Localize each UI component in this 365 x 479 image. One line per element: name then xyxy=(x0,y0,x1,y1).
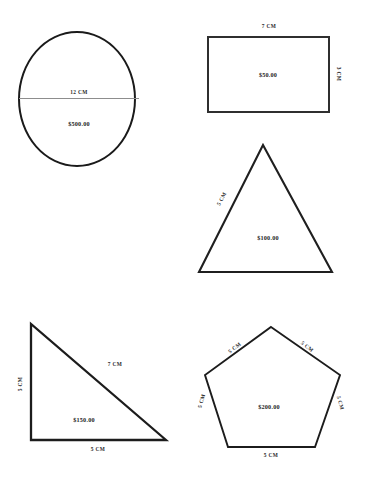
shape-rectangle: 7 CM 3 CM $50.00 xyxy=(207,36,330,113)
right-triangle-bottom-label: 5 CM xyxy=(91,447,105,452)
triangle-price-label: $100.00 xyxy=(257,235,279,241)
shape-pentagon: 5 CM 5 CM 5 CM 5 CM 5 CM $200.00 xyxy=(203,325,345,453)
right-triangle-left-label: 5 CM xyxy=(18,377,23,391)
triangle-outline xyxy=(196,143,338,277)
circle-outline xyxy=(18,31,136,167)
right-triangle-price-label: $150.00 xyxy=(73,417,95,423)
shape-circle: 12 CM $500.00 xyxy=(18,31,136,167)
pentagon-bottom-label: 5 CM xyxy=(264,453,278,458)
circle-diameter-line xyxy=(19,98,139,99)
pentagon-outline xyxy=(203,325,345,453)
worksheet-canvas: 12 CM $500.00 7 CM 3 CM $50.00 5 CM $100… xyxy=(0,0,365,479)
pentagon-price-label: $200.00 xyxy=(258,404,280,410)
rectangle-right-label: 3 CM xyxy=(335,67,340,81)
right-triangle-hypotenuse-label: 7 CM xyxy=(108,362,122,367)
shape-triangle: 5 CM $100.00 xyxy=(196,143,338,277)
rectangle-price-label: $50.00 xyxy=(259,72,277,78)
right-triangle-outline xyxy=(29,322,171,446)
circle-diameter-label: 12 CM xyxy=(70,90,87,95)
circle-price-label: $500.00 xyxy=(68,121,90,127)
rectangle-top-label: 7 CM xyxy=(262,24,276,29)
shape-right-triangle: 5 CM 7 CM 5 CM $150.00 xyxy=(29,322,171,446)
